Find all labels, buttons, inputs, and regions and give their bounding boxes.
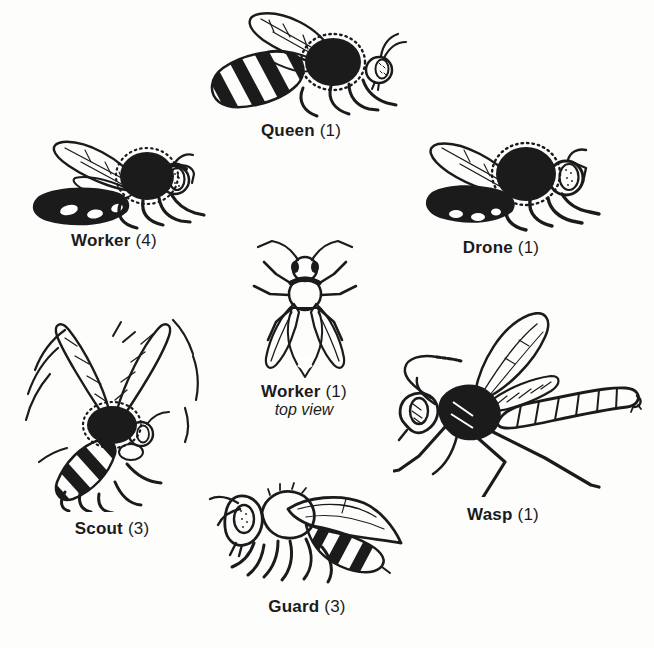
- drone-label: Drone: [463, 238, 513, 257]
- worker-top-subcaption: top view: [275, 401, 334, 419]
- guard-caption: Guard (3): [268, 597, 345, 617]
- worker-side-abdomen: [33, 188, 129, 226]
- drone-figure: [420, 136, 605, 236]
- scout-bee-illustration: [15, 312, 200, 512]
- guard-label: Guard: [268, 597, 319, 616]
- worker-top-thorax: [289, 278, 321, 310]
- worker-side-legs: [119, 194, 204, 228]
- worker-side-count: (4): [136, 231, 157, 250]
- drone-count: (1): [518, 238, 539, 257]
- worker-side-label: Worker: [71, 231, 130, 250]
- wasp-head: [399, 393, 438, 440]
- scout-label: Scout: [75, 519, 123, 538]
- worker-top-count: (1): [326, 382, 347, 401]
- wasp-label: Wasp: [467, 505, 513, 524]
- drone-caption: Drone (1): [463, 238, 539, 258]
- guard-count: (3): [324, 597, 345, 616]
- worker-side-caption: Worker (4): [71, 231, 157, 251]
- drone-abdomen: [426, 185, 515, 222]
- wasp-forewing: [474, 313, 548, 400]
- queen-head: [366, 34, 406, 90]
- worker-top-wings: [266, 304, 344, 368]
- worker-top-figure: [238, 238, 373, 380]
- guard-head: [225, 496, 262, 556]
- worker-top-abdomen: [288, 308, 322, 377]
- queen-bee-illustration: [203, 12, 415, 120]
- bee-colony-figure: Queen (1) Worker (4) Drone (1) Worker (1…: [0, 0, 654, 648]
- scout-wings: [56, 324, 170, 416]
- queen-thorax: [301, 34, 365, 90]
- queen-caption: Queen (1): [261, 121, 341, 141]
- worker-top-label: Worker: [261, 382, 320, 401]
- worker-side-illustration: [25, 138, 215, 230]
- wasp-caption: Wasp (1): [467, 505, 539, 525]
- queen-label: Queen: [261, 121, 315, 140]
- worker-side-figure: [25, 138, 215, 230]
- guard-figure: [206, 477, 411, 587]
- worker-top-legs: [254, 262, 356, 340]
- worker-top-illustration: [238, 238, 373, 380]
- wasp-figure: [393, 312, 653, 497]
- wasp-legs: [394, 427, 599, 497]
- worker-top-caption: Worker (1): [261, 382, 347, 402]
- guard-bee-illustration: [206, 477, 411, 587]
- wasp-abdomen: [498, 388, 641, 428]
- scout-caption: Scout (3): [75, 519, 150, 539]
- drone-bee-illustration: [420, 136, 605, 236]
- scout-figure: [15, 312, 200, 512]
- wasp-count: (1): [518, 505, 539, 524]
- scout-count: (3): [128, 519, 149, 538]
- wasp-illustration: [393, 312, 653, 497]
- queen-count: (1): [320, 121, 341, 140]
- queen-figure: [203, 12, 415, 120]
